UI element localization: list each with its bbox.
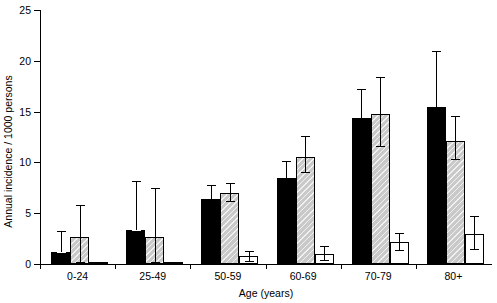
- error-bar-cap-bottom: [151, 262, 160, 263]
- y-tick-label: 15: [0, 107, 31, 117]
- x-tick-label-50-59: 50-59: [190, 270, 265, 282]
- error-bar-cap-bottom: [376, 146, 385, 147]
- error-bar-line: [305, 136, 306, 172]
- bar-50-59-s1: [201, 199, 220, 264]
- error-bar-line: [136, 181, 137, 231]
- x-tick-mark: [115, 264, 116, 269]
- plot-area: [40, 10, 491, 264]
- error-bar-line: [80, 205, 81, 262]
- error-bar-line: [155, 188, 156, 262]
- error-bar-line: [249, 251, 250, 261]
- x-tick-label-0-24: 0-24: [40, 270, 115, 282]
- error-bar-cap-top: [320, 246, 329, 247]
- error-bar-cap-bottom: [470, 249, 479, 250]
- x-tick-mark: [190, 264, 191, 269]
- bar-60-69-s1: [277, 178, 296, 264]
- y-tick-label: 20: [0, 56, 31, 66]
- x-tick-label-80plus: 80+: [416, 270, 491, 282]
- error-bar-cap-bottom: [432, 130, 441, 131]
- error-bar-cap-top: [207, 185, 216, 186]
- error-bar-line: [230, 183, 231, 201]
- y-tick-label: 10: [0, 157, 31, 167]
- x-tick-label-25-49: 25-49: [115, 270, 190, 282]
- error-bar-cap-top: [226, 183, 235, 184]
- bar-25-49-s1: [126, 230, 145, 264]
- x-tick-mark: [341, 264, 342, 269]
- y-axis-label: Annual incidence / 1000 persons: [2, 0, 16, 303]
- error-bar-cap-bottom: [357, 132, 366, 133]
- error-bar-cap-bottom: [207, 206, 216, 207]
- bar-chart-figure: Annual incidence / 1000 persons 05101520…: [0, 0, 497, 303]
- error-bar-cap-bottom: [132, 230, 141, 231]
- error-bar-cap-top: [57, 231, 66, 232]
- error-bar-cap-top: [301, 136, 310, 137]
- error-bar-line: [455, 116, 456, 160]
- error-bar-cap-top: [245, 251, 254, 252]
- x-tick-mark: [416, 264, 417, 269]
- x-axis-title: Age (years): [40, 287, 492, 299]
- error-bar-cap-bottom: [282, 188, 291, 189]
- error-bar-cap-top: [451, 116, 460, 117]
- x-tick-label-60-69: 60-69: [266, 270, 341, 282]
- error-bar-cap-bottom: [76, 262, 85, 263]
- bar-0-24-s1: [51, 252, 70, 264]
- error-bar-cap-bottom: [451, 159, 460, 160]
- bar-50-59-s2: [220, 193, 239, 264]
- x-tick-mark-origin: [40, 264, 41, 269]
- y-axis-label-container: Annual incidence / 1000 persons: [2, 0, 18, 270]
- error-bar-cap-top: [376, 77, 385, 78]
- y-tick-label: 25: [0, 5, 31, 15]
- bar-series-container: [40, 10, 491, 264]
- x-tick-mark: [266, 264, 267, 269]
- error-bar-line: [211, 185, 212, 206]
- bar-25-49-s3: [164, 262, 183, 264]
- error-bar-cap-top: [357, 89, 366, 90]
- error-bar-line: [324, 246, 325, 260]
- error-bar-cap-top: [76, 205, 85, 206]
- error-bar-cap-bottom: [226, 201, 235, 202]
- error-bar-cap-top: [151, 188, 160, 189]
- error-bar-line: [380, 77, 381, 146]
- error-bar-cap-bottom: [301, 172, 310, 173]
- error-bar-cap-top: [132, 181, 141, 182]
- error-bar-cap-top: [470, 216, 479, 217]
- error-bar-line: [286, 161, 287, 187]
- error-bar-line: [399, 233, 400, 250]
- y-tick-label: 0: [0, 259, 31, 269]
- error-bar-cap-bottom: [245, 261, 254, 262]
- error-bar-cap-top: [395, 233, 404, 234]
- error-bar-cap-bottom: [320, 260, 329, 261]
- error-bar-line: [61, 231, 62, 251]
- y-tick-label: 5: [0, 208, 31, 218]
- error-bar-cap-bottom: [395, 250, 404, 251]
- x-tick-label-70-79: 70-79: [341, 270, 416, 282]
- error-bar-line: [361, 89, 362, 132]
- bar-60-69-s2: [296, 157, 315, 264]
- bar-70-79-s1: [352, 118, 371, 264]
- x-axis-tick-labels: 0-2425-4950-5960-6970-7980+: [40, 270, 492, 284]
- error-bar-line: [474, 216, 475, 249]
- error-bar-cap-top: [432, 51, 441, 52]
- bar-0-24-s3: [89, 262, 108, 264]
- error-bar-line: [436, 51, 437, 130]
- error-bar-cap-top: [282, 161, 291, 162]
- error-bar-cap-bottom: [57, 252, 66, 253]
